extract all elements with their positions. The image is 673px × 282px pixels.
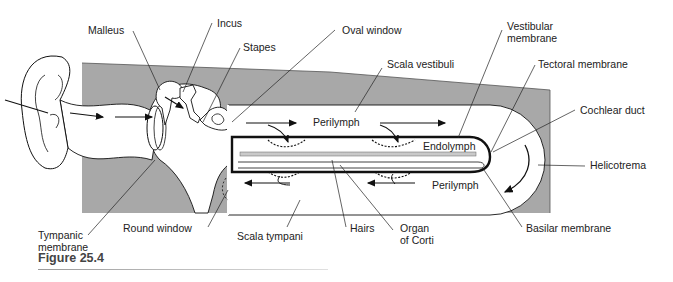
diagram-drawing	[0, 0, 673, 282]
cochlea-diagram: Malleus Incus Stapes Oval window Scala v…	[0, 0, 673, 282]
label-perilymph-top: Perilymph	[313, 116, 360, 128]
label-tectoral-membrane: Tectoral membrane	[538, 58, 628, 70]
label-tympanic-membrane: Tympanic membrane	[38, 229, 88, 253]
label-round-window: Round window	[123, 222, 192, 234]
label-scala-vestibuli: Scala vestibuli	[387, 58, 454, 70]
label-helicotrema: Helicotrema	[590, 159, 646, 171]
label-oval-window: Oval window	[342, 24, 402, 36]
label-organ-of-corti: Organ of Corti	[400, 222, 434, 246]
label-stapes: Stapes	[243, 41, 276, 53]
label-malleus: Malleus	[88, 24, 124, 36]
label-basilar-membrane: Basilar membrane	[526, 222, 611, 234]
label-incus: Incus	[217, 17, 242, 29]
label-endolymph: Endolymph	[423, 140, 476, 152]
label-scala-tympani: Scala tympani	[237, 230, 303, 242]
label-vestibular-membrane: Vestibular membrane	[507, 20, 557, 44]
figure-caption: Figure 25.4	[38, 251, 104, 265]
ear-canal	[60, 100, 158, 160]
caption-rule	[38, 269, 328, 270]
label-cochlear-duct: Cochlear duct	[580, 104, 645, 116]
label-hairs: Hairs	[350, 222, 375, 234]
label-perilymph-bottom: Perilymph	[432, 179, 479, 191]
